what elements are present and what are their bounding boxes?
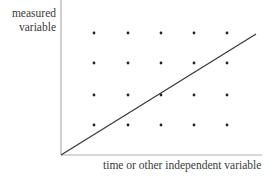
data-point [160, 32, 163, 35]
data-point [193, 124, 196, 127]
y-axis-label-line-2: variable [12, 20, 56, 34]
scatter-dots [93, 32, 229, 127]
data-point [160, 124, 163, 127]
data-point [93, 124, 96, 127]
data-point [93, 62, 96, 65]
data-point [193, 94, 196, 97]
data-point [193, 32, 196, 35]
data-point [226, 32, 229, 35]
data-point [127, 32, 130, 35]
data-point [127, 94, 130, 97]
data-point [93, 32, 96, 35]
data-point [127, 62, 130, 65]
y-axis-label: measured variable [12, 6, 56, 34]
data-point [127, 124, 130, 127]
data-point [226, 62, 229, 65]
axes [61, 0, 262, 155]
data-point [160, 62, 163, 65]
x-axis-label: time or other independent variable [103, 158, 261, 172]
data-point [193, 62, 196, 65]
y-axis-label-line-1: measured [12, 6, 56, 20]
data-point [226, 94, 229, 97]
data-point [226, 124, 229, 127]
data-point [93, 94, 96, 97]
